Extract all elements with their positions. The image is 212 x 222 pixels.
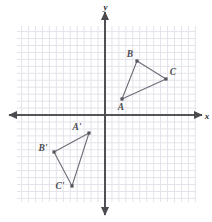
- vertex-marker-A: [120, 97, 123, 100]
- vertex-marker-C-prime: [70, 184, 73, 187]
- vertex-marker-B: [135, 59, 138, 62]
- coordinate-plane-svg: xyABCA'B'C': [0, 0, 212, 222]
- vertex-label-B: B: [126, 49, 133, 59]
- vertex-label-A-prime: A': [72, 122, 82, 132]
- coordinate-plane-figure: xyABCA'B'C': [0, 0, 212, 222]
- vertex-label-A: A: [117, 102, 124, 112]
- vertex-marker-B-prime: [52, 150, 55, 153]
- grid-lines: [17, 26, 196, 202]
- vertex-label-B-prime: B': [38, 143, 48, 153]
- vertex-label-C-prime: C': [56, 181, 65, 191]
- vertex-marker-C: [164, 77, 167, 80]
- vertex-label-C: C: [170, 67, 177, 77]
- x-axis-label: x: [204, 111, 210, 121]
- vertex-marker-A-prime: [87, 131, 90, 134]
- y-axis-label: y: [103, 2, 109, 12]
